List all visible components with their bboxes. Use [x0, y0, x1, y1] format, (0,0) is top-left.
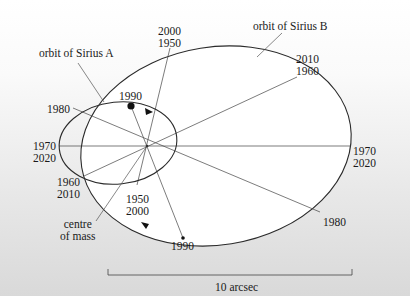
date-a-top: 1990: [119, 90, 142, 102]
sirius-orbit-diagram: orbit of Sirius A orbit of Sirius B 2000…: [0, 0, 417, 305]
date-b-lower-right: 1980: [323, 216, 346, 228]
scale-label: 10 arcsec: [215, 281, 258, 293]
date-a-upper-left: 1980: [47, 103, 70, 115]
date-a-bottom: 19502000: [126, 193, 149, 217]
centre-of-mass-point: [146, 145, 149, 148]
scale-bar: [108, 269, 352, 275]
orbit-a-leader: [78, 63, 104, 102]
sirius-a-1990-dot: [127, 102, 134, 109]
centre-of-mass-label: centreof mass: [60, 218, 95, 242]
date-b-bottom: 1990: [171, 240, 194, 252]
date-a-lower-left: 19602010: [57, 176, 80, 200]
date-b-right: 19702020: [353, 145, 376, 169]
date-a-left: 19702020: [33, 140, 56, 164]
orbit-a-label: orbit of Sirius A: [39, 47, 113, 59]
orbit-b-label: orbit of Sirius B: [253, 20, 327, 32]
date-b-top: 20001950: [158, 25, 181, 49]
date-b-upper-right: 20101960: [296, 53, 319, 77]
